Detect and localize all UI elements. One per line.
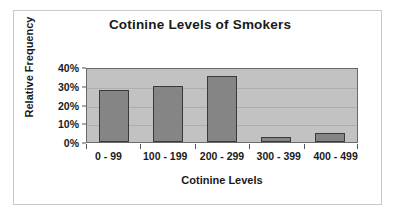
- x-axis-tick-label: 100 - 199: [137, 150, 194, 162]
- chart-figure: Cotinine Levels of Smokers Relative Freq…: [0, 0, 395, 222]
- bar-slot: [303, 69, 357, 142]
- x-axis-title: Cotinine Levels: [86, 174, 358, 186]
- bar: [207, 76, 236, 142]
- x-axis-tick-label: 200 - 299: [194, 150, 251, 162]
- y-axis-tick-labels: 0%10%20%30%40%: [44, 68, 82, 143]
- x-axis-tick-labels: 0 - 99100 - 199200 - 299300 - 399400 - 4…: [80, 150, 364, 162]
- x-axis-tick-mark: [195, 144, 196, 149]
- x-axis-tick-mark: [86, 144, 87, 149]
- y-axis-tick-label: 40%: [41, 62, 79, 74]
- bar-slot: [87, 69, 141, 142]
- bar-slot: [195, 69, 249, 142]
- chart-title: Cotinine Levels of Smokers: [60, 17, 340, 32]
- x-axis-tick-mark: [140, 144, 141, 149]
- x-axis-tick-label: 300 - 399: [250, 150, 307, 162]
- y-axis-tick-label: 20%: [41, 100, 79, 112]
- y-axis-title: Relative Frequency: [20, 12, 38, 122]
- x-axis-tick-label: 0 - 99: [80, 150, 137, 162]
- bar: [261, 137, 290, 142]
- plot-area: [86, 68, 358, 143]
- bar-slot: [141, 69, 195, 142]
- x-axis-tick-marks: [86, 144, 358, 149]
- x-axis-tick-mark: [249, 144, 250, 149]
- x-axis-tick-label: 400 - 499: [307, 150, 364, 162]
- y-axis-tick-label: 10%: [41, 118, 79, 130]
- bar: [315, 133, 344, 142]
- x-axis-tick-mark: [357, 144, 358, 149]
- y-axis-tick-label: 0%: [41, 137, 79, 149]
- bar-series: [87, 69, 357, 142]
- x-axis-tick-mark: [304, 144, 305, 149]
- bar: [99, 90, 128, 143]
- y-axis-tick-label: 30%: [41, 81, 79, 93]
- bar: [153, 86, 182, 142]
- bar-slot: [249, 69, 303, 142]
